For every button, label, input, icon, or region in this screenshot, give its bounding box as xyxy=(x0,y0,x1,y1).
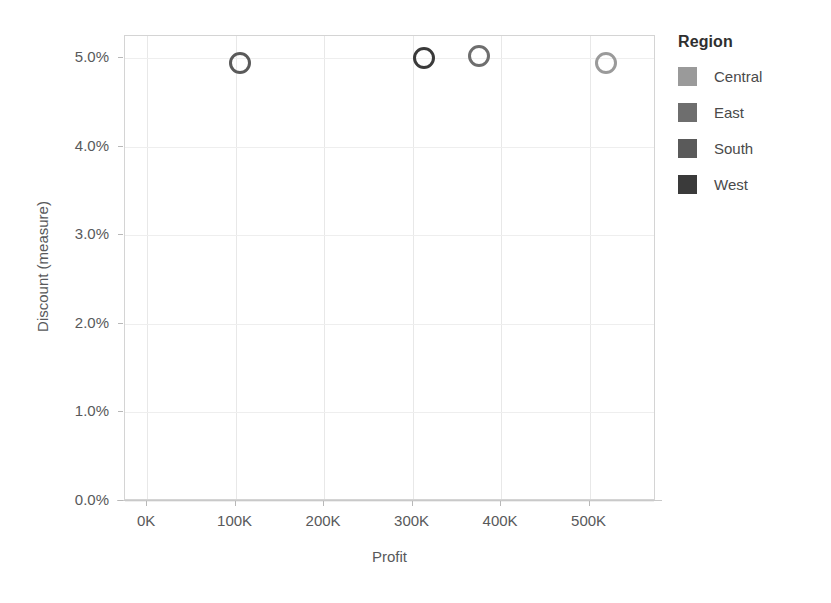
y-tick-5 xyxy=(118,57,123,58)
gridline-y-1 xyxy=(125,412,654,413)
data-point-central[interactable] xyxy=(595,52,617,74)
y-tick-2 xyxy=(118,323,123,324)
y-tick-4 xyxy=(118,146,123,147)
x-tick-0 xyxy=(146,501,147,506)
chart-canvas: 0K100K200K300K400K500K 0.0%1.0%2.0%3.0%4… xyxy=(0,0,831,603)
x-tick-1 xyxy=(235,501,236,506)
x-tick-label-3: 300K xyxy=(372,512,452,529)
data-point-south[interactable] xyxy=(229,52,251,74)
x-tick-label-2: 200K xyxy=(283,512,363,529)
x-axis-line xyxy=(117,500,662,501)
legend: Region CentralEastSouthWest xyxy=(678,33,818,202)
data-point-east[interactable] xyxy=(468,45,490,67)
legend-items: CentralEastSouthWest xyxy=(678,58,818,202)
x-tick-2 xyxy=(323,501,324,506)
y-tick-label-1: 1.0% xyxy=(4,402,109,419)
y-tick-3 xyxy=(118,234,123,235)
gridline-y-5 xyxy=(125,58,654,59)
legend-item-west[interactable]: West xyxy=(678,166,818,202)
legend-label-west: West xyxy=(714,176,748,193)
legend-item-central[interactable]: Central xyxy=(678,58,818,94)
y-tick-label-3: 3.0% xyxy=(4,225,109,242)
legend-label-central: Central xyxy=(714,68,762,85)
plot-area xyxy=(124,35,655,500)
legend-label-east: East xyxy=(714,104,744,121)
gridline-x-0 xyxy=(147,36,148,499)
gridline-x-5 xyxy=(590,36,591,499)
y-tick-1 xyxy=(118,411,123,412)
gridline-x-3 xyxy=(413,36,414,499)
gridline-x-1 xyxy=(236,36,237,499)
legend-title: Region xyxy=(678,33,818,51)
x-tick-3 xyxy=(412,501,413,506)
x-tick-label-5: 500K xyxy=(549,512,629,529)
y-tick-label-4: 4.0% xyxy=(4,137,109,154)
legend-label-south: South xyxy=(714,140,753,157)
x-tick-5 xyxy=(589,501,590,506)
gridline-y-3 xyxy=(125,235,654,236)
gridline-y-4 xyxy=(125,147,654,148)
legend-swatch-west xyxy=(678,175,697,194)
legend-swatch-east xyxy=(678,103,697,122)
gridline-x-2 xyxy=(324,36,325,499)
gridline-y-0 xyxy=(125,501,654,502)
x-tick-label-0: 0K xyxy=(106,512,186,529)
y-tick-label-2: 2.0% xyxy=(4,314,109,331)
legend-item-south[interactable]: South xyxy=(678,130,818,166)
legend-swatch-south xyxy=(678,139,697,158)
x-tick-label-1: 100K xyxy=(195,512,275,529)
x-tick-4 xyxy=(500,501,501,506)
y-tick-0 xyxy=(118,500,123,501)
gridline-x-4 xyxy=(501,36,502,499)
y-tick-label-5: 5.0% xyxy=(4,48,109,65)
x-tick-label-4: 400K xyxy=(460,512,540,529)
y-axis-title: Discount (measure) xyxy=(34,34,51,499)
legend-item-east[interactable]: East xyxy=(678,94,818,130)
gridline-y-2 xyxy=(125,324,654,325)
x-axis-title: Profit xyxy=(124,548,655,565)
legend-swatch-central xyxy=(678,67,697,86)
data-point-west[interactable] xyxy=(413,47,435,69)
y-tick-label-0: 0.0% xyxy=(4,491,109,508)
